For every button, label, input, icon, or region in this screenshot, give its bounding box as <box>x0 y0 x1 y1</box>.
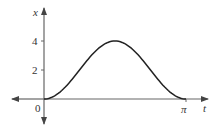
y-axis-label: x <box>32 6 38 18</box>
x-axis-label: t <box>203 102 207 114</box>
origin-label: 0 <box>35 102 41 114</box>
y-tick-label-4: 4 <box>32 35 38 47</box>
chart: x 4 2 0 π t <box>0 0 220 130</box>
curve-x-of-t <box>44 41 186 99</box>
y-tick-label-2: 2 <box>32 64 38 76</box>
x-tick-label-pi: π <box>181 103 187 115</box>
